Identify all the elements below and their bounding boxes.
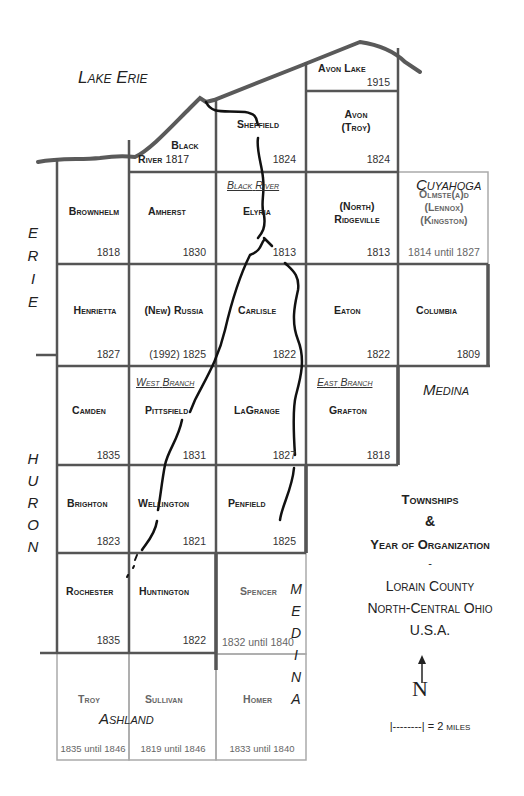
legend-ampersand: & bbox=[330, 513, 524, 529]
legend-region: North-Central Ohio bbox=[330, 600, 524, 616]
township-year: 1818 bbox=[350, 449, 390, 461]
black-river-label: Black River bbox=[227, 179, 279, 191]
township-camden: Camden bbox=[72, 404, 106, 417]
township-penfield: Penfield bbox=[228, 497, 266, 510]
township-year: 1824 bbox=[256, 153, 296, 165]
erie-county-label: ERIE bbox=[26, 218, 40, 316]
township-huntington: Huntington bbox=[139, 585, 189, 598]
township-brighton: Brighton bbox=[67, 497, 108, 510]
legend-title-year: Year of Organization bbox=[330, 537, 524, 552]
black-river-split bbox=[264, 238, 272, 246]
medina-county-label: Medina bbox=[423, 381, 469, 398]
township-year: 1827 bbox=[256, 449, 296, 461]
township-year: 1814 until 1827 bbox=[402, 246, 486, 258]
township-columbia: Columbia bbox=[416, 304, 457, 317]
township-eaton: Eaton bbox=[334, 304, 361, 317]
township-year: 1823 bbox=[80, 535, 120, 547]
east-branch bbox=[280, 263, 302, 520]
legend-county: Lorain County bbox=[330, 578, 524, 594]
township-year: 1824 bbox=[350, 153, 390, 165]
township-sheffield: Sheffield bbox=[237, 118, 279, 131]
township-year: 1822 bbox=[166, 634, 206, 646]
huron-county-label: HURON bbox=[26, 448, 40, 558]
township-year: 1825 bbox=[256, 535, 296, 547]
ashland-county-label: Ashland bbox=[99, 710, 154, 727]
township-troy: Troy bbox=[78, 693, 100, 706]
township-carlisle: Carlisle bbox=[238, 304, 276, 317]
township-year: 1827 bbox=[80, 348, 120, 360]
scale-bar: |--------| = 2 miles bbox=[330, 720, 524, 732]
township-year: 1833 until 1840 bbox=[220, 743, 304, 754]
township-grafton: Grafton bbox=[329, 404, 367, 417]
township-year: (1992) 1825 bbox=[140, 348, 206, 360]
township-year: 1835 bbox=[80, 634, 120, 646]
township-north-ridgeville: (North)Ridgeville bbox=[322, 200, 392, 226]
lake-erie-shoreline bbox=[38, 42, 420, 162]
township-rochester: Rochester bbox=[66, 585, 113, 598]
west-branch-label: West Branch bbox=[136, 376, 194, 388]
township-olmsted: Olmste(a)d(Lennox)(Kingston) bbox=[402, 188, 486, 227]
township-elyria: Elyria bbox=[243, 205, 271, 218]
lake-erie-label: Lake Erie bbox=[78, 68, 148, 88]
north-letter: N bbox=[412, 676, 428, 702]
township-wellington: Wellington bbox=[138, 497, 189, 510]
township-black-river: Black bbox=[160, 139, 210, 152]
black-river bbox=[142, 102, 265, 550]
township-year: 1835 until 1846 bbox=[57, 743, 129, 754]
township-pittsfield: Pittsfield bbox=[145, 404, 188, 417]
township-year: 1818 bbox=[80, 246, 120, 258]
legend-country: U.S.A. bbox=[330, 622, 524, 638]
township-year: 1813 bbox=[256, 246, 296, 258]
township-avon: Avon(Troy) bbox=[336, 108, 376, 134]
township-new-russia: (New) Russia bbox=[136, 304, 212, 317]
township-lagrange: LaGrange bbox=[234, 404, 280, 417]
township-year: 1822 bbox=[256, 348, 296, 360]
township-year: 1822 bbox=[350, 348, 390, 360]
east-branch-label: East Branch bbox=[317, 376, 372, 388]
township-year: 1831 bbox=[166, 449, 206, 461]
township-amherst: Amherst bbox=[148, 205, 186, 218]
township-avon-lake: Avon Lake bbox=[318, 62, 366, 75]
township-sullivan: Sullivan bbox=[145, 693, 183, 706]
township-year: 1809 bbox=[440, 348, 480, 360]
township-year: 1832 until 1840 bbox=[222, 636, 302, 648]
legend-dash: - bbox=[330, 557, 524, 569]
township-brownhelm: Brownhelm bbox=[62, 205, 126, 218]
township-henrietta: Henrietta bbox=[64, 304, 126, 317]
township-year: 1915 bbox=[350, 76, 390, 88]
township-year: 1835 bbox=[80, 449, 120, 461]
township-year: 1830 bbox=[166, 246, 206, 258]
township-year: 1813 bbox=[350, 246, 390, 258]
township-black-river-2: River 1817 bbox=[138, 153, 189, 166]
township-year: 1819 until 1846 bbox=[132, 743, 214, 754]
township-year: 1821 bbox=[166, 535, 206, 547]
township-homer: Homer bbox=[243, 693, 272, 706]
legend-title-townships: Townships bbox=[330, 492, 524, 507]
township-spencer: Spencer bbox=[240, 585, 277, 598]
